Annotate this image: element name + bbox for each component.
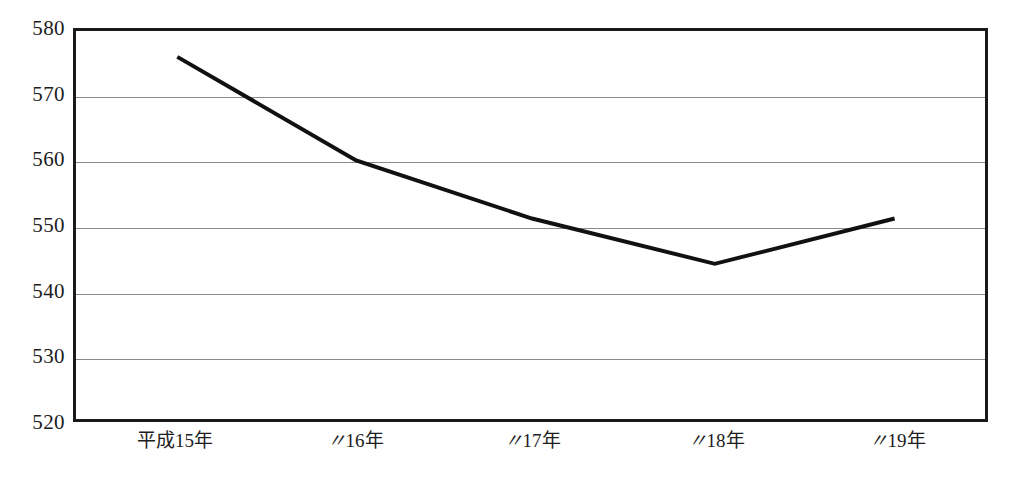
y-tick-label-550: 550 [32, 215, 65, 236]
ditto-mark: 〃 [688, 430, 707, 451]
y-axis: 580570560550540530520 [0, 0, 73, 489]
y-tick-label-540: 540 [32, 280, 65, 301]
ditto-mark: 〃 [504, 430, 523, 451]
series-path [177, 57, 894, 264]
y-tick-label-520: 520 [32, 412, 65, 433]
x-tick-label-0: 平成15年 [137, 430, 213, 453]
y-tick-label-560: 560 [32, 149, 65, 170]
y-tick-label-530: 530 [32, 346, 65, 367]
chart-page: 580570560550540530520 平成15年〃16年〃17年〃18年〃… [0, 0, 1020, 489]
x-tick-label-1: 〃16年 [327, 430, 384, 453]
x-tick-label-3: 〃18年 [688, 430, 745, 453]
ditto-mark: 〃 [327, 430, 346, 451]
x-tick-label-4: 〃19年 [869, 430, 926, 453]
data-series-line [76, 31, 985, 419]
y-tick-label-580: 580 [32, 18, 65, 39]
ditto-mark: 〃 [869, 430, 888, 451]
y-tick-label-570: 570 [32, 83, 65, 104]
x-axis: 平成15年〃16年〃17年〃18年〃19年 [0, 430, 1020, 470]
plot-area [73, 28, 988, 422]
x-tick-label-2: 〃17年 [504, 430, 561, 453]
